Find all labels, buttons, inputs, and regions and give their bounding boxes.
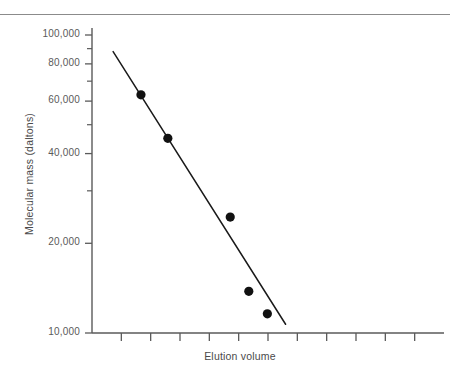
data-point: [163, 134, 172, 143]
y-axis-label: Molecular mass (daltons): [23, 99, 35, 249]
data-point: [263, 309, 272, 318]
data-point: [226, 212, 235, 221]
chart-figure: 100,00080,00060,00040,00020,00010,000 Mo…: [0, 0, 456, 378]
x-axis-label: Elution volume: [85, 350, 395, 362]
y-axis-tick-label: 80,000: [0, 57, 80, 68]
data-point: [244, 287, 253, 296]
axes-group: [92, 28, 444, 333]
y-axis-tick-label: 40,000: [0, 147, 80, 158]
data-point: [136, 90, 145, 99]
y-axis-tick-label: 100,000: [0, 28, 80, 39]
data-points-group: [136, 90, 272, 318]
y-axis-tick-label: 60,000: [0, 94, 80, 105]
y-axis-tick-label: 20,000: [0, 236, 80, 247]
y-axis-tick-label: 10,000: [0, 326, 80, 337]
